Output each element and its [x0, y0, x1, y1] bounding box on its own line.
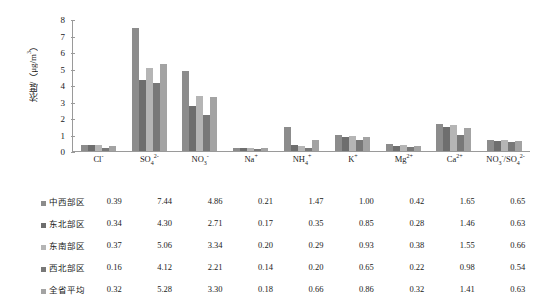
table-cell: 0.17 [240, 212, 290, 234]
bar-group [73, 20, 124, 151]
table-cell: 4.30 [139, 212, 189, 234]
table-cell: 0.28 [392, 212, 442, 234]
legend-swatch-icon [41, 223, 46, 228]
bar [88, 145, 95, 151]
data-table-body: 中西部区0.397.444.860.211.471.000.421.650.65… [0, 190, 543, 299]
table-cell: 0.22 [392, 256, 442, 278]
bar [487, 140, 494, 151]
data-table-head: Cl-SO42-NO3-Na+NH4+K+Mg2+Ca2+NO3-/SO42- [0, 170, 543, 190]
y-axis-title-text: 浓度/（μg/m [28, 54, 38, 102]
bar [153, 83, 160, 151]
y-axis-tick: 0 [71, 152, 75, 153]
y-axis-title-exponent: 3 [26, 51, 32, 54]
bar-group [175, 20, 226, 151]
bar [109, 146, 116, 151]
bar [95, 145, 102, 151]
bar-group [479, 20, 530, 151]
x-axis-tick-label: Mg2+ [378, 154, 429, 170]
table-cell: 0.29 [291, 234, 341, 256]
table-cell: 0.65 [341, 256, 391, 278]
table-cell: 1.65 [442, 190, 492, 212]
bar [457, 135, 464, 151]
legend-swatch-icon [41, 289, 46, 294]
legend-item-label: 东南部区 [49, 241, 85, 251]
y-axis-tick-label: 1 [61, 132, 66, 141]
bar [233, 148, 240, 151]
table-cell: 0.63 [493, 212, 543, 234]
table-cell: 0.86 [341, 278, 391, 299]
bar [305, 148, 312, 151]
bar-group [378, 20, 429, 151]
table-cell: 0.38 [392, 234, 442, 256]
table-cell: 3.34 [190, 234, 240, 256]
x-axis-tick-label: Na+ [226, 154, 277, 170]
bar-group [276, 20, 327, 151]
legend-item[interactable]: 西北部区 [0, 256, 89, 278]
table-cell: 7.44 [139, 190, 189, 212]
bar [501, 140, 508, 151]
bar [298, 146, 305, 151]
table-cell: 1.00 [341, 190, 391, 212]
table-cell: 2.21 [190, 256, 240, 278]
y-axis-tick-label: 0 [61, 148, 66, 157]
table-cell: 0.34 [89, 212, 139, 234]
bar [515, 141, 522, 151]
table-cell: 0.42 [392, 190, 442, 212]
table-row: 中西部区0.397.444.860.211.471.000.421.650.65 [0, 190, 543, 212]
legend-item[interactable]: 全省平均 [0, 278, 89, 299]
legend-item-label: 东北部区 [49, 219, 85, 229]
x-axis-line [72, 151, 530, 152]
x-axis-tick-label: SO42- [124, 154, 175, 170]
bar [291, 145, 298, 151]
y-axis-tick-label: 7 [61, 33, 66, 42]
table-cell: 5.28 [139, 278, 189, 299]
table-cell: 0.39 [89, 190, 139, 212]
table-cell: 4.12 [139, 256, 189, 278]
y-axis-title-suffix: ） [28, 42, 38, 51]
legend-item-label: 全省平均 [49, 285, 85, 295]
y-axis-tick-label: 4 [61, 82, 66, 91]
bar [203, 115, 210, 151]
bar [189, 106, 196, 151]
table-row: 全省平均0.325.283.300.180.660.860.321.410.63 [0, 278, 543, 299]
legend-item-label: 西北部区 [49, 263, 85, 273]
bar-group [428, 20, 479, 151]
bar [132, 28, 139, 151]
bar [386, 144, 393, 151]
bar [247, 148, 254, 151]
bar [335, 135, 342, 152]
legend-item[interactable]: 东北部区 [0, 212, 89, 234]
y-axis-tick-label: 8 [61, 16, 66, 25]
legend-item[interactable]: 东南部区 [0, 234, 89, 256]
bar [356, 140, 363, 151]
bar-group [225, 20, 276, 151]
data-table: Cl-SO42-NO3-Na+NH4+K+Mg2+Ca2+NO3-/SO42- … [0, 170, 543, 299]
table-cell: 4.86 [190, 190, 240, 212]
table-cell: 0.66 [291, 278, 341, 299]
table-cell: 0.16 [89, 256, 139, 278]
table-cell: 0.21 [240, 190, 290, 212]
bar [146, 68, 153, 151]
data-table-wrap: Cl-SO42-NO3-Na+NH4+K+Mg2+Ca2+NO3-/SO42- … [0, 170, 543, 299]
table-cell: 0.85 [341, 212, 391, 234]
bar [400, 145, 407, 151]
table-cell: 1.41 [442, 278, 492, 299]
bar [443, 127, 450, 151]
bar [414, 146, 421, 151]
bar-groups [73, 20, 530, 151]
legend-item-label: 中西部区 [49, 197, 85, 207]
legend-item[interactable]: 中西部区 [0, 190, 89, 212]
legend-swatch-icon [41, 201, 46, 206]
plot-area: 876543210 [72, 20, 530, 152]
bar [81, 145, 88, 151]
bar [464, 128, 471, 151]
y-axis-tick-label: 3 [61, 99, 66, 108]
x-axis-tick-label: Cl- [73, 154, 124, 170]
bar [139, 80, 146, 151]
y-axis-tick-label: 2 [61, 115, 66, 124]
x-axis-tick-label: Ca2+ [429, 154, 480, 170]
legend-swatch-icon [41, 245, 46, 250]
table-cell: 0.98 [442, 256, 492, 278]
y-axis-tick-label: 5 [61, 66, 66, 75]
bar [450, 125, 457, 151]
